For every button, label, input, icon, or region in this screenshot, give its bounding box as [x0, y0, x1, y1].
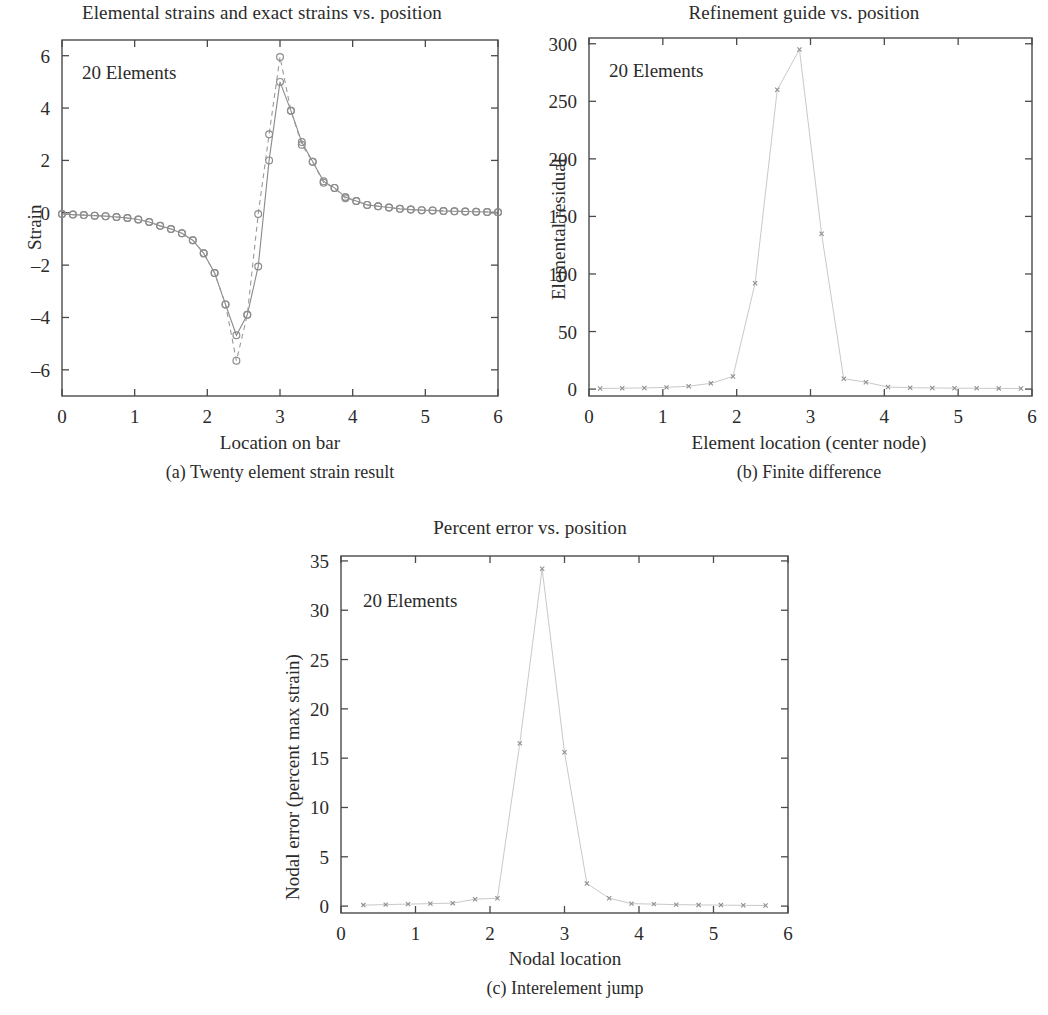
x-tick-label: 2	[732, 406, 742, 427]
x-tick-label: 0	[584, 406, 594, 427]
x-tick-label: 0	[336, 923, 346, 944]
x-tick-label: 6	[493, 406, 503, 427]
panel-a-caption: (a) Twenty element strain result	[20, 462, 540, 483]
y-tick-label: 20	[310, 699, 329, 720]
y-tick-label: 4	[41, 98, 51, 119]
x-tick-label: 5	[953, 406, 963, 427]
figure-container: Elemental strains and exact strains vs. …	[0, 0, 1048, 1015]
panel-c-caption: (c) Interelement jump	[341, 978, 789, 999]
data-series-line	[62, 82, 498, 335]
x-tick-label: 1	[130, 406, 140, 427]
y-tick-label: 0	[568, 379, 578, 400]
y-tick-label: 30	[310, 600, 329, 621]
y-tick-label: 250	[549, 91, 578, 112]
x-tick-label: 3	[275, 406, 285, 427]
y-tick-label: 6	[41, 46, 51, 67]
y-tick-label: 50	[558, 322, 577, 343]
y-tick-label: 2	[41, 150, 51, 171]
panel-a: Elemental strains and exact strains vs. …	[0, 0, 524, 505]
data-series-line	[600, 50, 1021, 389]
y-tick-label: 35	[310, 551, 329, 572]
x-tick-label: 4	[348, 406, 358, 427]
panel-a-xlabel: Location on bar	[60, 432, 500, 454]
panel-c-plot: 012345605101520253035	[260, 515, 800, 945]
panel-c-xlabel: Nodal location	[341, 948, 789, 970]
y-tick-label: 25	[310, 650, 329, 671]
data-series-line	[62, 57, 498, 361]
panel-b: Refinement guide vs. position Elemental …	[524, 0, 1048, 505]
x-tick-label: 5	[421, 406, 431, 427]
x-tick-label: 3	[806, 406, 816, 427]
x-tick-label: 2	[203, 406, 213, 427]
y-tick-label: –6	[30, 360, 50, 381]
y-tick-label: 0	[320, 896, 330, 917]
y-tick-label: –2	[30, 255, 50, 276]
x-tick-label: 3	[560, 923, 570, 944]
panel-a-plot: 0123456–6–4–20246	[0, 0, 524, 430]
x-tick-label: 1	[411, 923, 421, 944]
x-tick-label: 6	[1027, 406, 1037, 427]
y-tick-label: 300	[549, 34, 578, 55]
panel-b-caption: (b) Finite difference	[584, 462, 1034, 483]
x-tick-label: 0	[57, 406, 67, 427]
y-tick-label: 100	[549, 264, 578, 285]
y-tick-label: 5	[320, 847, 330, 868]
panel-b-plot: 0123456050100150200250300	[524, 0, 1048, 430]
x-tick-label: 4	[634, 923, 644, 944]
x-tick-label: 1	[658, 406, 668, 427]
y-tick-label: 200	[549, 149, 578, 170]
x-tick-label: 4	[880, 406, 890, 427]
y-tick-label: 10	[310, 797, 329, 818]
x-tick-label: 5	[709, 923, 719, 944]
y-tick-label: –4	[30, 307, 51, 328]
y-tick-label: 15	[310, 748, 329, 769]
y-tick-label: 0	[41, 203, 51, 224]
data-series-line	[363, 569, 765, 906]
plot-frame	[589, 38, 1032, 396]
panel-b-xlabel: Element location (center node)	[584, 432, 1034, 454]
y-tick-label: 150	[549, 206, 578, 227]
plot-frame	[341, 556, 788, 913]
panel-c: Percent error vs. position Nodal error (…	[260, 515, 800, 1015]
x-tick-label: 2	[485, 923, 495, 944]
x-tick-label: 6	[783, 923, 793, 944]
